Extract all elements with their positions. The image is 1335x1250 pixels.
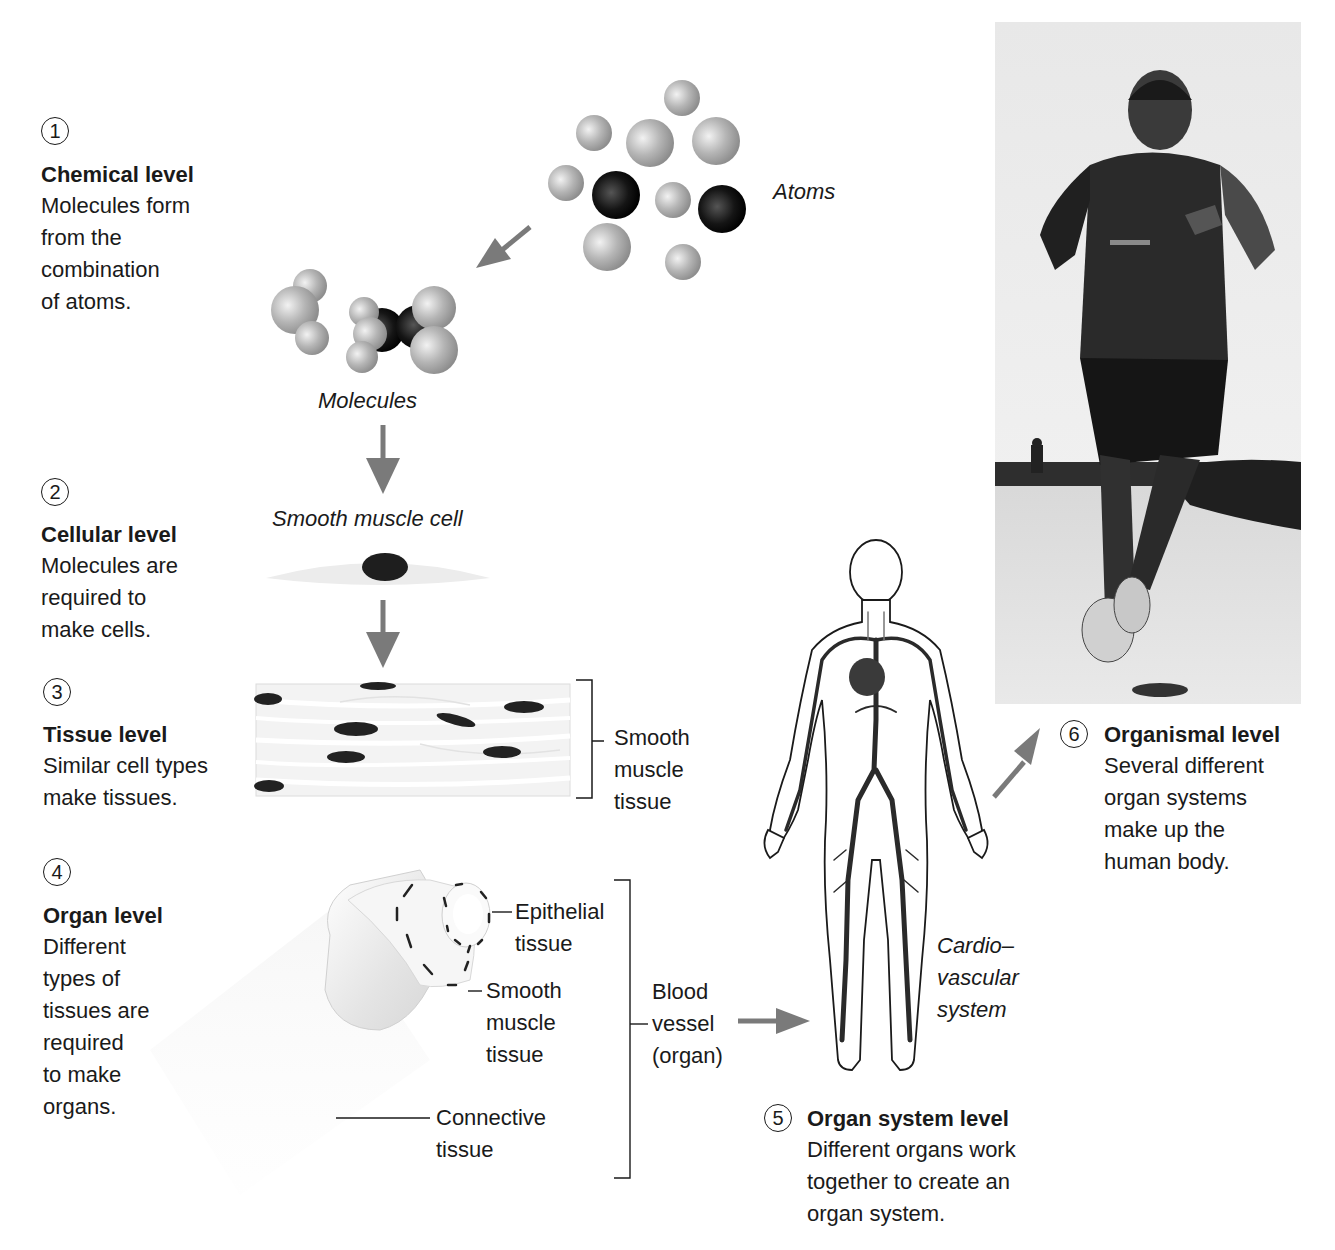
label-line: Connective <box>436 1102 546 1134</box>
level-6-desc-line: Several different <box>1104 750 1280 782</box>
label-line: Cardio– <box>937 930 1019 962</box>
level-6-desc-line: organ systems <box>1104 782 1280 814</box>
level-3-number-badge: 3 <box>43 678 71 706</box>
smooth-muscle-tissue-illustration <box>254 682 570 796</box>
arrow-molecules-to-cell <box>366 425 400 494</box>
arrow-cell-to-tissue <box>366 600 400 668</box>
level-3-desc-line: make tissues. <box>43 782 208 814</box>
runner-photo <box>995 22 1301 704</box>
label-line: tissue <box>436 1134 546 1166</box>
label-line: system <box>937 994 1019 1026</box>
level-1-desc-line: of atoms. <box>41 286 194 318</box>
smooth-muscle-cell-illustration <box>266 553 490 585</box>
blood-vessel-label: Blood vessel (organ) <box>652 976 723 1072</box>
arrow-atoms-to-molecules <box>476 227 530 268</box>
level-6-number-badge: 6 <box>1060 720 1088 748</box>
level-5-desc-line: Different organs work <box>807 1134 1016 1166</box>
label-line: Smooth <box>486 975 562 1007</box>
connective-tissue-label: Connective tissue <box>436 1102 546 1166</box>
level-1-desc-line: combination <box>41 254 194 286</box>
organ-smooth-muscle-label: Smooth muscle tissue <box>486 975 562 1071</box>
label-line: muscle <box>486 1007 562 1039</box>
cardiovascular-system-label: Cardio– vascular system <box>937 930 1019 1026</box>
level-5-number-badge: 5 <box>764 1104 792 1132</box>
level-4-title: Organ level <box>43 901 163 931</box>
level-5-desc-line: organ system. <box>807 1198 1016 1230</box>
level-2-block: Cellular level Molecules are required to… <box>41 520 178 646</box>
level-5-title: Organ system level <box>807 1104 1016 1134</box>
level-4-desc-line: tissues are <box>43 995 163 1027</box>
level-6-desc-line: human body. <box>1104 846 1280 878</box>
label-line: muscle <box>614 754 690 786</box>
level-2-number-badge: 2 <box>41 478 69 506</box>
level-1-number-badge: 1 <box>41 117 69 145</box>
level-2-desc-line: make cells. <box>41 614 178 646</box>
level-4-block: Organ level Different types of tissues a… <box>43 901 163 1123</box>
level-6-desc-line: make up the <box>1104 814 1280 846</box>
smooth-muscle-cell-label: Smooth muscle cell <box>272 503 463 535</box>
level-2-desc-line: required to <box>41 582 178 614</box>
atoms-label: Atoms <box>773 176 835 208</box>
smooth-muscle-tissue-label: Smooth muscle tissue <box>614 722 690 818</box>
level-6-block: Organismal level Several different organ… <box>1104 720 1280 878</box>
level-4-desc-line: Different <box>43 931 163 963</box>
level-1-title: Chemical level <box>41 160 194 190</box>
arrow-vessel-to-system <box>738 1008 810 1034</box>
heart-shape <box>849 658 885 696</box>
level-1-block: Chemical level Molecules form from the c… <box>41 160 194 318</box>
level-5-desc-line: together to create an <box>807 1166 1016 1198</box>
level-5-block: Organ system level Different organs work… <box>807 1104 1016 1230</box>
level-3-block: Tissue level Similar cell types make tis… <box>43 720 208 814</box>
label-line: Epithelial <box>515 896 604 928</box>
level-2-title: Cellular level <box>41 520 178 550</box>
level-3-title: Tissue level <box>43 720 208 750</box>
level-1-desc-line: from the <box>41 222 194 254</box>
level-4-number-badge: 4 <box>43 858 71 886</box>
level-4-desc-line: to make <box>43 1059 163 1091</box>
arrow-system-to-organism <box>994 728 1040 797</box>
label-line: (organ) <box>652 1040 723 1072</box>
label-line: tissue <box>486 1039 562 1071</box>
epithelial-tissue-label: Epithelial tissue <box>515 896 604 960</box>
level-3-desc-line: Similar cell types <box>43 750 208 782</box>
label-line: Smooth <box>614 722 690 754</box>
tissue-bracket <box>576 680 604 798</box>
molecules-illustration <box>271 269 458 374</box>
label-line: Blood <box>652 976 723 1008</box>
atoms-illustration <box>548 80 746 280</box>
level-4-desc-line: required <box>43 1027 163 1059</box>
label-line: tissue <box>515 928 604 960</box>
level-1-desc-line: Molecules form <box>41 190 194 222</box>
level-4-desc-line: types of <box>43 963 163 995</box>
level-6-title: Organismal level <box>1104 720 1280 750</box>
level-4-desc-line: organs. <box>43 1091 163 1123</box>
label-line: vascular <box>937 962 1019 994</box>
label-line: tissue <box>614 786 690 818</box>
molecules-label: Molecules <box>318 385 417 417</box>
level-2-desc-line: Molecules are <box>41 550 178 582</box>
label-line: vessel <box>652 1008 723 1040</box>
